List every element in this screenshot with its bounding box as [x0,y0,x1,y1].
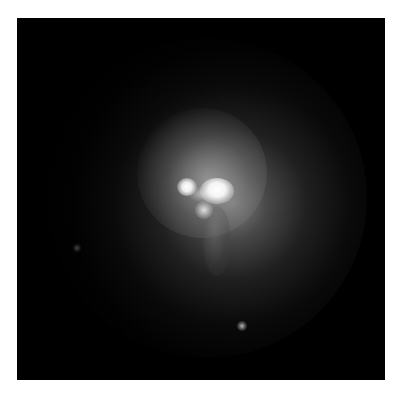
core-lower-knot [195,201,213,219]
astronomical-image-frame [17,18,385,380]
bright-core-left [177,178,197,196]
point-source-left [73,244,81,252]
point-source-lower [237,321,247,331]
bright-core-right [200,178,234,204]
